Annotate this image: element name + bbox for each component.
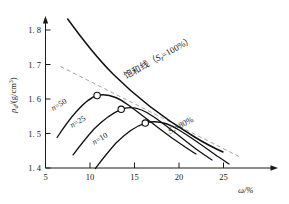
peak-marker-n25 <box>118 106 124 112</box>
x-tick-label-10: 10 <box>86 172 95 182</box>
y-axis-units: /(g/cm <box>8 83 18 106</box>
y-tick-label-1-4: 1. 4 <box>28 163 42 173</box>
x-axis-title: ω/% <box>238 185 253 195</box>
x-tick-label-25: 25 <box>219 172 228 182</box>
peak-marker-n50 <box>94 92 100 98</box>
y-tick-label-1-8: 1. 8 <box>28 25 41 35</box>
y-tick-label-1-6: 1. 6 <box>28 94 41 104</box>
density-moisture-chart: 1. 4 1. 5 1. 6 1. 7 1. 8 5 10 15 20 25 ω… <box>0 0 289 204</box>
x-tick-label-15: 15 <box>130 172 139 182</box>
x-tick-label-20: 20 <box>175 172 184 182</box>
y-tick-label-1-7: 1. 7 <box>28 60 41 70</box>
x-axis-title-text: ω/% <box>238 185 253 195</box>
peak-marker-n10 <box>142 120 148 126</box>
x-tick-label-5: 5 <box>43 172 47 182</box>
y-axis-close-paren: ) <box>8 77 18 80</box>
chart-canvas: 1. 4 1. 5 1. 6 1. 7 1. 8 5 10 15 20 25 ω… <box>0 0 289 204</box>
y-tick-label-1-5: 1. 5 <box>28 129 41 139</box>
